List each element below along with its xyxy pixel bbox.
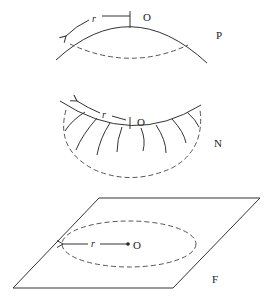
origin-label: O xyxy=(137,116,145,128)
radius-label: r xyxy=(91,238,95,249)
curvature-diagram: r O P r O N r O F xyxy=(0,0,271,300)
geodesic-circle-dashed xyxy=(64,110,201,178)
saddle-radial-lines xyxy=(65,112,199,155)
panel-negative-curvature: r O N xyxy=(60,101,222,178)
radius-arrow xyxy=(66,20,89,36)
origin-label: O xyxy=(133,239,141,251)
radius-label: r xyxy=(102,109,106,120)
radius-label: r xyxy=(92,13,96,24)
panel-label: P xyxy=(216,29,222,41)
origin-label: O xyxy=(143,11,151,23)
geodesic-circle-dashed xyxy=(70,44,188,58)
sphere-surface-arc xyxy=(56,27,207,63)
panel-flat: r O F xyxy=(13,198,260,288)
panel-label: N xyxy=(214,137,222,149)
panel-positive-curvature: r O P xyxy=(56,11,222,63)
panel-label: F xyxy=(212,273,218,285)
